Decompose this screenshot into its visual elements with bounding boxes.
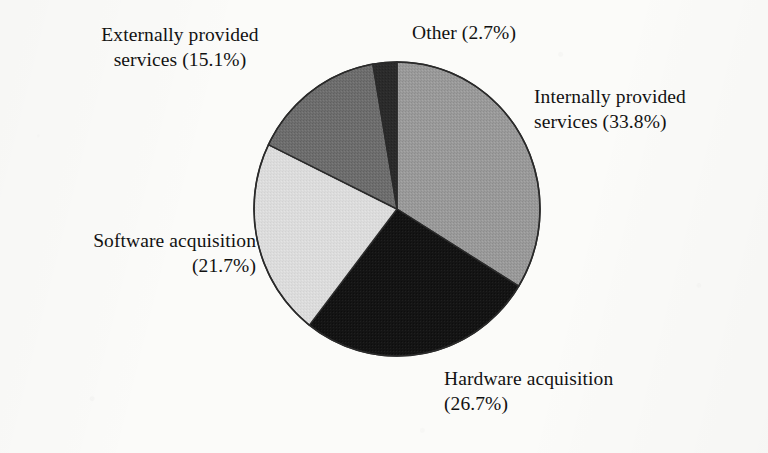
slice-label-line-2: services (33.8%) bbox=[534, 109, 768, 134]
pie-chart-figure: Externally provided services (15.1%) Oth… bbox=[0, 0, 768, 453]
pie-wedges bbox=[254, 62, 540, 356]
slice-label-line-1: Hardware acquisition bbox=[444, 366, 736, 391]
slice-label-other: Other (2.7%) bbox=[364, 20, 564, 45]
slice-label-internally-provided-services: Internally provided services (33.8%) bbox=[534, 84, 768, 134]
slice-label-line-1: Externally provided bbox=[54, 22, 306, 47]
slice-label-line-1: Internally provided bbox=[534, 84, 768, 109]
slice-label-line-2: (21.7%) bbox=[8, 253, 256, 278]
slice-label-hardware-acquisition: Hardware acquisition (26.7%) bbox=[444, 366, 736, 416]
slice-label-line-2: services (15.1%) bbox=[54, 47, 306, 72]
slice-label-externally-provided-services: Externally provided services (15.1%) bbox=[54, 22, 306, 72]
slice-label-software-acquisition: Software acquisition (21.7%) bbox=[8, 228, 256, 278]
slice-label-line-1: Other (2.7%) bbox=[364, 20, 564, 45]
slice-label-line-2: (26.7%) bbox=[444, 391, 736, 416]
slice-label-line-1: Software acquisition bbox=[8, 228, 256, 253]
